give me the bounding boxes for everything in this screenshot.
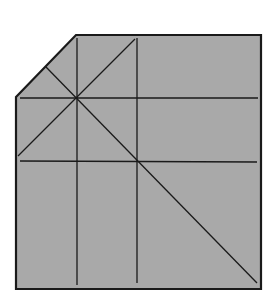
crease-pattern-diagram <box>0 0 279 303</box>
